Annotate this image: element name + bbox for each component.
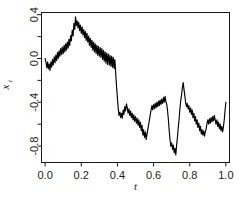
y-tick-label: -0.4 bbox=[28, 93, 40, 112]
y-tick-label: 0.0 bbox=[28, 51, 40, 66]
brownian-motion-plot: 0.40.0-0.4-0.8 0.00.20.40.60.81.0 t x t bbox=[0, 0, 240, 204]
figure-caption bbox=[0, 193, 240, 204]
svg-text:0.4: 0.4 bbox=[28, 7, 40, 22]
y-tick-label: 0.4 bbox=[28, 7, 40, 22]
x-tick-label: 0.6 bbox=[146, 169, 161, 181]
x-tick-label: 0.4 bbox=[110, 169, 125, 181]
x-tick-label: 0.8 bbox=[182, 169, 197, 181]
y-axis-title-base: x bbox=[0, 84, 11, 90]
x-tick-label: 1.0 bbox=[218, 169, 233, 181]
svg-text:-0.4: -0.4 bbox=[28, 93, 40, 112]
x-tick-label: 0.2 bbox=[74, 169, 89, 181]
figure-container: 0.40.0-0.4-0.8 0.00.20.40.60.81.0 t x t bbox=[0, 0, 240, 204]
svg-text:-0.8: -0.8 bbox=[28, 137, 40, 156]
svg-text:0.0: 0.0 bbox=[28, 51, 40, 66]
x-tick-label: 0.0 bbox=[37, 169, 52, 181]
y-tick-label: -0.8 bbox=[28, 137, 40, 156]
